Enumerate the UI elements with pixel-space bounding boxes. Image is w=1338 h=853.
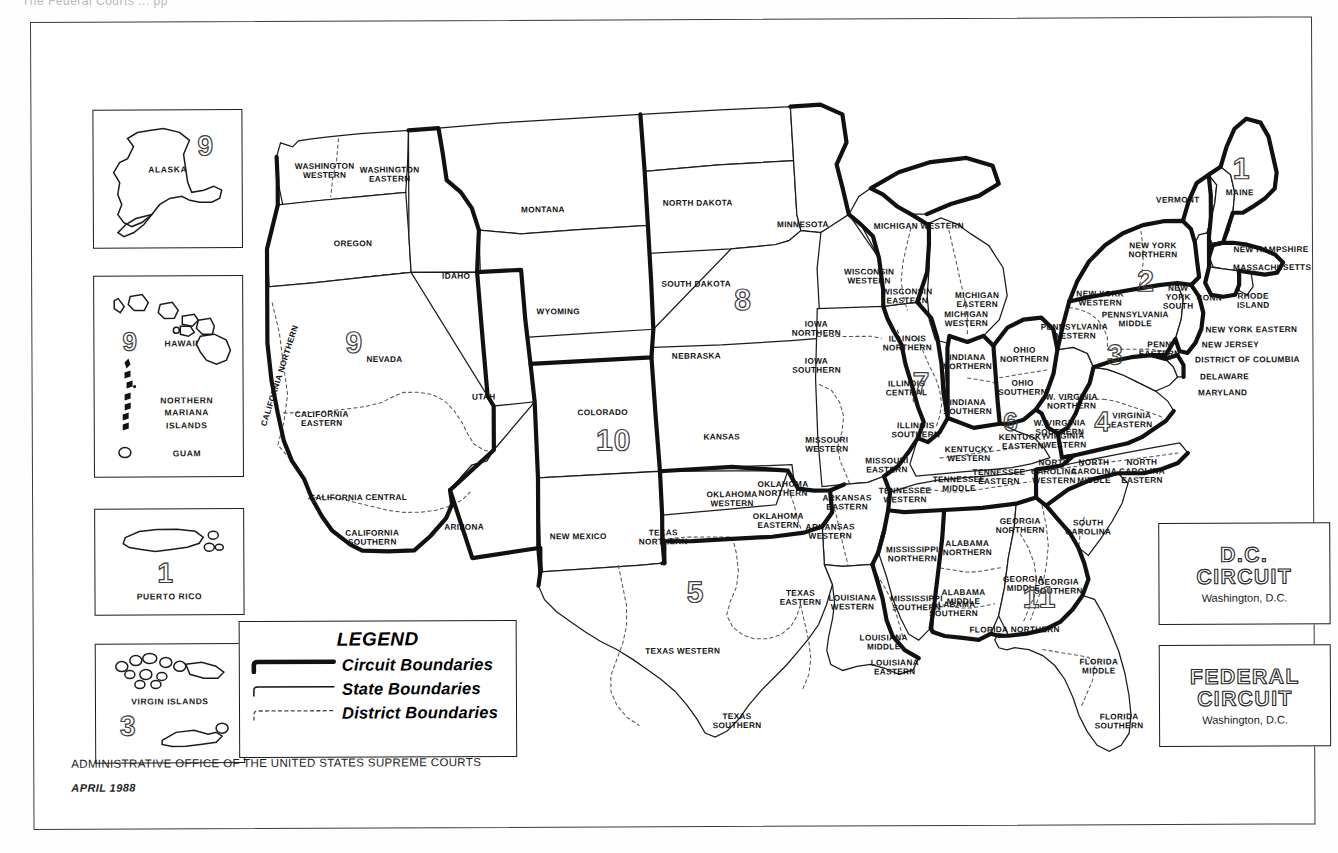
- dc-circuit-box: D.C. CIRCUIT Washington, D.C.: [1158, 522, 1330, 625]
- legend-swatch-circuit: [250, 657, 336, 673]
- legend-title: LEGEND: [240, 628, 516, 651]
- inset-label-hawaii: HAWAII: [146, 338, 216, 348]
- legend-label-district: District Boundaries: [342, 703, 498, 723]
- cut-off-header: The Federal Courts ... pp: [22, 0, 322, 8]
- pacific-islands-shape: [94, 276, 241, 475]
- legend-row-circuit: Circuit Boundaries: [240, 655, 516, 675]
- federal-circuit-line2: CIRCUIT: [1197, 687, 1293, 709]
- legend-row-state: State Boundaries: [240, 679, 516, 699]
- inset-label-guam: GUAM: [147, 448, 227, 458]
- legend-label-state: State Boundaries: [342, 679, 481, 699]
- dc-circuit-line2: CIRCUIT: [1197, 565, 1293, 587]
- map-page: The Federal Courts ... pp: [0, 0, 1338, 853]
- legend-swatch-district: [250, 705, 336, 721]
- legend-label-circuit: Circuit Boundaries: [342, 655, 493, 675]
- alaska-shape: [93, 110, 240, 246]
- inset-label-puerto-rico: PUERTO RICO: [95, 591, 243, 602]
- inset-alaska: ALASKA 9: [92, 109, 243, 249]
- inset-label-virgin-islands: VIRGIN ISLANDS: [96, 696, 244, 707]
- inset-label-alaska: ALASKA: [94, 164, 242, 175]
- federal-circuit-line1: FEDERAL: [1190, 665, 1300, 687]
- federal-circuit-location: Washington, D.C.: [1202, 714, 1288, 726]
- legend-row-district: District Boundaries: [240, 703, 516, 723]
- federal-circuit-box: FEDERAL CIRCUIT Washington, D.C.: [1159, 644, 1331, 747]
- footer-date-line: APRIL 1988: [71, 782, 135, 794]
- legend-box: LEGEND Circuit Boundaries State Boundari…: [239, 620, 518, 758]
- footer-agency-line: ADMINISTRATIVE OFFICE OF THE UNITED STAT…: [71, 756, 481, 770]
- dc-circuit-location: Washington, D.C.: [1202, 592, 1288, 604]
- inset-pacific-islands: 9 HAWAII NORTHERN MARIANA ISLANDS GUAM: [93, 275, 244, 478]
- legend-swatch-state: [250, 681, 336, 697]
- dc-circuit-line1: D.C.: [1220, 543, 1268, 565]
- inset-label-northern-mariana-islands: NORTHERN MARIANA ISLANDS: [147, 394, 227, 431]
- inset-puerto-rico: 1 PUERTO RICO: [94, 508, 244, 616]
- inset-virgin-islands: VIRGIN ISLANDS 3: [95, 643, 246, 764]
- map-canvas: ALASKA 9: [30, 16, 1314, 828]
